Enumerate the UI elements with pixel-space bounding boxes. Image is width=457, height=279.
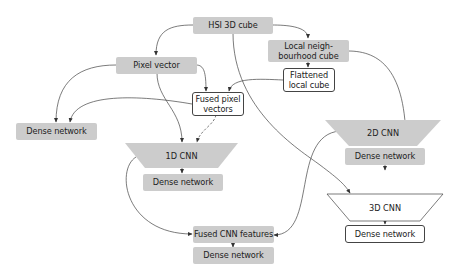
dense-2d-label: Dense network	[355, 151, 415, 162]
hsi-3d-cube-node: HSI 3D cube	[193, 17, 273, 34]
dense-bottom-label: Dense network	[203, 250, 263, 261]
edge-fused-pixel-to-dense-left	[70, 98, 192, 122]
fused-pixel-label-line2: vectors	[203, 104, 233, 115]
dense-network-left-node: Dense network	[16, 123, 97, 140]
edge-pixel-to-dense-left	[56, 65, 116, 122]
dense-network-2d-node: Dense network	[345, 148, 425, 165]
flattened-local-cube-node: Flattened local cube	[283, 68, 335, 92]
cnn-1d-node: 1D CNN	[125, 143, 238, 168]
dense-left-label: Dense network	[26, 126, 86, 137]
edge-hsi-to-pixel-vector	[156, 25, 193, 55]
local-cube-label-line2: bourhood cube	[278, 51, 338, 62]
fused-pixel-vectors-node: Fused pixel vectors	[192, 92, 244, 116]
edge-pixel-to-fused-pixel	[196, 65, 206, 91]
dense-network-1d-node: Dense network	[143, 174, 223, 191]
cnn-2d-node: 2D CNN	[325, 120, 441, 146]
fused-cnn-features-node: Fused CNN features	[193, 226, 274, 243]
edge-flattened-to-fused-pixel	[229, 79, 283, 91]
hsi-3d-cube-label: HSI 3D cube	[208, 20, 257, 31]
fused-cnn-label: Fused CNN features	[194, 229, 273, 240]
fused-pixel-label-line1: Fused pixel	[196, 94, 241, 105]
cnn-3d-label: 3D CNN	[369, 203, 401, 213]
dense-network-3d-node: Dense network	[345, 225, 425, 243]
cnn-2d-label: 2D CNN	[367, 128, 399, 138]
flattened-label-line2: local cube	[289, 80, 330, 91]
edge-hsi-to-local-cube	[272, 25, 308, 38]
dense-1d-label: Dense network	[153, 177, 213, 188]
pixel-vector-node: Pixel vector	[116, 57, 197, 74]
cnn-3d-node: 3D CNN	[327, 194, 443, 221]
local-cube-label-line1: Local neigh-	[284, 41, 332, 52]
edge-pixel-to-1d-cnn	[157, 73, 182, 142]
pixel-vector-label: Pixel vector	[133, 60, 179, 71]
edge-fused-pixel-to-1d-cnn	[197, 115, 216, 142]
flattened-label-line1: Flattened	[290, 70, 328, 81]
local-neighbourhood-cube-node: Local neigh- bourhood cube	[268, 40, 349, 62]
dense-network-bottom-node: Dense network	[193, 247, 274, 264]
dense-3d-label: Dense network	[355, 229, 415, 240]
cnn-1d-label: 1D CNN	[165, 151, 197, 161]
